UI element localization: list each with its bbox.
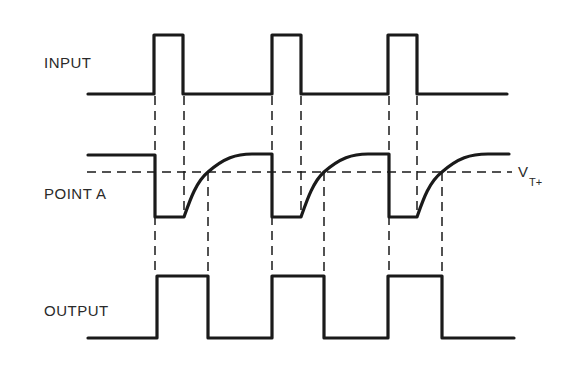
output-waveform [88, 276, 514, 338]
output-label: OUTPUT [44, 302, 109, 319]
input-waveform [88, 35, 507, 94]
point-a-waveform [88, 154, 509, 217]
input-label: INPUT [44, 54, 92, 71]
timing-diagram: INPUT POINT A OUTPUT V T+ [0, 0, 576, 369]
threshold-label-sub: T+ [529, 176, 542, 188]
threshold-label-v: V [518, 163, 528, 180]
point-a-label: POINT A [44, 185, 106, 202]
